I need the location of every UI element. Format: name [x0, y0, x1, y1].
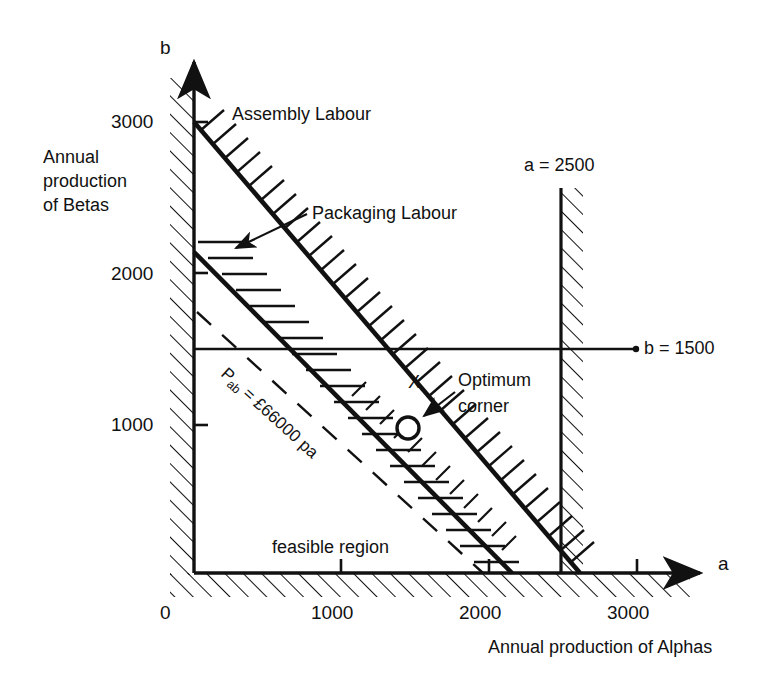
constraint-line-assembly-labour — [194, 122, 580, 573]
feasible-region-label: feasible region — [272, 537, 389, 559]
x-axis-title: Annual production of Alphas — [488, 637, 712, 659]
constraint-hatch-a-2500 — [561, 188, 583, 573]
x-tick-label-1000: 1000 — [311, 601, 353, 624]
optimum-corner-label-line-2: corner — [458, 396, 509, 418]
y-axis-symbol: b — [160, 36, 171, 59]
b-constraint-label: b = 1500 — [644, 338, 715, 360]
assembly-labour-label: Assembly Labour — [232, 104, 371, 126]
constraint-hatch-assembly-labour — [201, 110, 594, 562]
y-tick-label-2000: 2000 — [111, 262, 153, 285]
y-axis-title-line-2: production — [43, 171, 127, 193]
y-axis-title-line-1: Annual — [43, 147, 99, 169]
optimum-corner-marker — [397, 417, 419, 439]
x-tick-label-3000: 3000 — [607, 601, 649, 624]
x-axis-symbol: a — [718, 552, 729, 575]
optimum-corner-label-line-1: Optimum — [458, 370, 531, 392]
y-axis-title-line-3: of Betas — [43, 195, 109, 217]
y-tick-label-3000: 3000 — [111, 110, 153, 133]
axis-hatch-band-y — [170, 78, 194, 575]
y-tick-label-1000: 1000 — [111, 413, 153, 436]
isoprofit-line — [197, 312, 483, 573]
y-axis-ticks — [194, 122, 208, 425]
axis-hatch-band-x — [170, 573, 690, 597]
x-tick-label-2000: 2000 — [459, 601, 501, 624]
packaging-labour-label: Packaging Labour — [312, 203, 457, 225]
origin-label: 0 — [160, 601, 171, 624]
corner-marker-label: X — [408, 372, 420, 394]
a-constraint-label: a = 2500 — [524, 155, 595, 177]
